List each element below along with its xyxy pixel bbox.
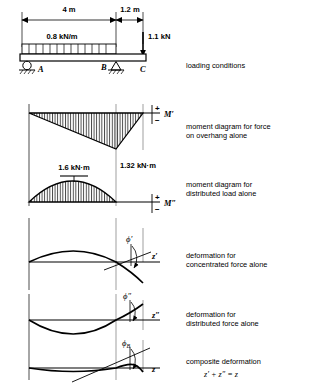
caption-moment-overhang: moment diagram for force on overhang alo…: [186, 122, 271, 140]
deform-composite-tangent: [72, 348, 150, 382]
support-b-label: B: [100, 63, 107, 72]
support-a-label: A: [37, 65, 44, 74]
distributed-load-label: 0.8 kN/m: [46, 32, 77, 41]
caption-deform-concentrated: deformation for concentrated force alone: [186, 251, 267, 269]
support-b-pin: B: [100, 62, 124, 75]
deform-distributed-angle-label: ϕ″: [123, 291, 131, 301]
deform-concentrated-z-label: z′: [151, 252, 158, 261]
deform-distributed-z-label: z″: [151, 311, 160, 320]
deform-concentrated-curve: [29, 251, 143, 283]
moment-distributed-plus: +: [155, 193, 160, 202]
deformation-concentrated: ϕ′ z′: [29, 234, 160, 283]
moment-overhang-value-label: 1.32 kN·m: [120, 161, 156, 170]
support-a-roller: A: [19, 61, 44, 74]
moment-distributed-minus: −: [155, 205, 160, 214]
moment-diagram-distributed: 1.6 kN·m + − M″: [29, 163, 176, 214]
dimension-span-bc: 1.2 m: [116, 5, 143, 20]
deform-concentrated-tangent: [104, 252, 151, 270]
beam-member: [20, 54, 146, 61]
deform-distributed-curve: [29, 304, 143, 334]
moment-overhang-area: [29, 113, 143, 149]
moment-distributed-area: [29, 181, 116, 202]
moment-overhang-minus: −: [155, 116, 160, 125]
moment-distributed-axis-label: M″: [163, 199, 176, 208]
deform-composite-z-label: z: [151, 365, 156, 374]
point-load-arrow: 1.1 kN: [143, 32, 170, 56]
caption-moment-distributed: moment diagram for distributed load alon…: [186, 180, 256, 198]
deformation-composite: ϕB z: [29, 338, 160, 382]
caption-deform-composite: composite deformation: [186, 357, 261, 366]
moment-overhang-axis-label: M′: [163, 110, 174, 119]
deform-composite-angle-arc: [131, 349, 135, 369]
dimension-span-ab: 4 m: [22, 5, 116, 20]
moment-distributed-value-label: 1.6 kN·m: [58, 163, 90, 172]
point-load-label: 1.1 kN: [148, 32, 170, 41]
span-ab-label: 4 m: [62, 5, 75, 14]
loading-diagram: 4 m 1.2 m 0.8 kN/m: [19, 5, 170, 74]
figure-canvas: 4 m 1.2 m 0.8 kN/m: [0, 0, 310, 388]
caption-loading: loading conditions: [186, 61, 245, 70]
deform-concentrated-angle-label: ϕ′: [126, 234, 132, 244]
span-bc-label: 1.2 m: [120, 5, 140, 14]
deform-composite-angle-label: ϕB: [122, 338, 130, 349]
deform-concentrated-angle-arc: [132, 246, 137, 268]
beam-superposition-svg: 4 m 1.2 m 0.8 kN/m: [0, 0, 310, 388]
dimension-extension-lines: [22, 12, 143, 47]
composite-equation: z′ + z″ = z: [204, 370, 238, 379]
deformation-distributed: ϕ″ z″: [29, 291, 160, 334]
distributed-load-block: [22, 44, 116, 54]
caption-deform-distributed: deformation for distributed force alone: [186, 310, 259, 328]
moment-overhang-plus: +: [155, 104, 160, 113]
moment-diagram-overhang: + − M′ 1.32 kN·m: [29, 104, 174, 170]
point-c-label: C: [140, 65, 146, 74]
